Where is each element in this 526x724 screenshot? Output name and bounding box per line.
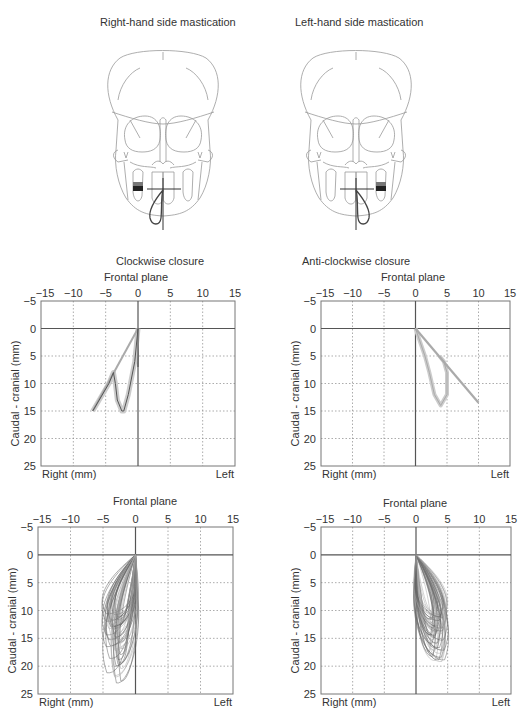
svg-text:20: 20: [304, 660, 316, 672]
svg-text:Right (mm): Right (mm): [322, 696, 376, 708]
svg-text:Caudal - cranial (mm): Caudal - cranial (mm): [289, 568, 301, 674]
svg-text:5: 5: [445, 513, 451, 525]
svg-text:25: 25: [304, 688, 316, 700]
svg-text:15: 15: [505, 513, 517, 525]
svg-text:0: 0: [413, 513, 419, 525]
svg-text:Left: Left: [492, 696, 510, 708]
svg-text:−10: −10: [343, 513, 362, 525]
svg-text:−15: −15: [316, 513, 335, 525]
svg-text:15: 15: [304, 632, 316, 644]
svg-text:5: 5: [310, 577, 316, 589]
svg-text:−5: −5: [378, 513, 391, 525]
svg-text:0: 0: [310, 549, 316, 561]
svg-text:10: 10: [304, 605, 316, 617]
svg-text:10: 10: [473, 513, 485, 525]
svg-text:Frontal plane: Frontal plane: [383, 497, 447, 509]
svg-text:−5: −5: [303, 521, 316, 533]
